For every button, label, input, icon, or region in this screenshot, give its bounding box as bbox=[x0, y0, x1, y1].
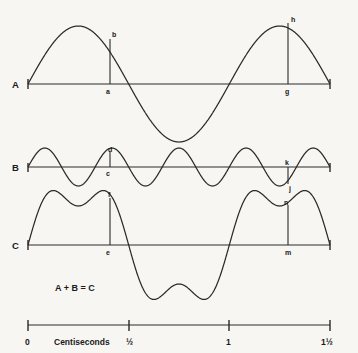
waveform-figure: A a b g h B c d k j C bbox=[0, 0, 358, 353]
point-label-a: a bbox=[106, 88, 110, 95]
row-label-b: B bbox=[12, 162, 19, 173]
point-label-k: k bbox=[285, 159, 289, 166]
row-label-c: C bbox=[12, 240, 19, 251]
point-label-d: d bbox=[108, 146, 112, 153]
point-label-e: e bbox=[106, 249, 110, 256]
time-axis-title: Centiseconds bbox=[54, 337, 110, 347]
wave-a-group: A a b g h bbox=[12, 16, 330, 142]
waveform-svg: A a b g h B c d k j C bbox=[0, 0, 358, 353]
point-label-m: m bbox=[285, 249, 291, 256]
point-label-c: c bbox=[106, 170, 110, 177]
point-label-h: h bbox=[291, 16, 295, 23]
point-label-b: b bbox=[112, 31, 116, 38]
point-label-j: j bbox=[288, 185, 291, 193]
time-axis-group: 0 ½ 1 1½ Centiseconds bbox=[25, 320, 333, 347]
time-tick-label-1: 1 bbox=[226, 337, 231, 347]
point-label-n: n bbox=[284, 199, 288, 206]
time-tick-label-1half: 1½ bbox=[321, 337, 333, 347]
point-label-g: g bbox=[285, 88, 289, 96]
time-tick-label-0: 0 bbox=[25, 337, 30, 347]
row-label-a: A bbox=[12, 79, 19, 90]
time-tick-label-half: ½ bbox=[126, 337, 133, 347]
equation-label: A + B = C bbox=[55, 283, 95, 293]
wave-b-group: B c d k j bbox=[12, 146, 330, 193]
